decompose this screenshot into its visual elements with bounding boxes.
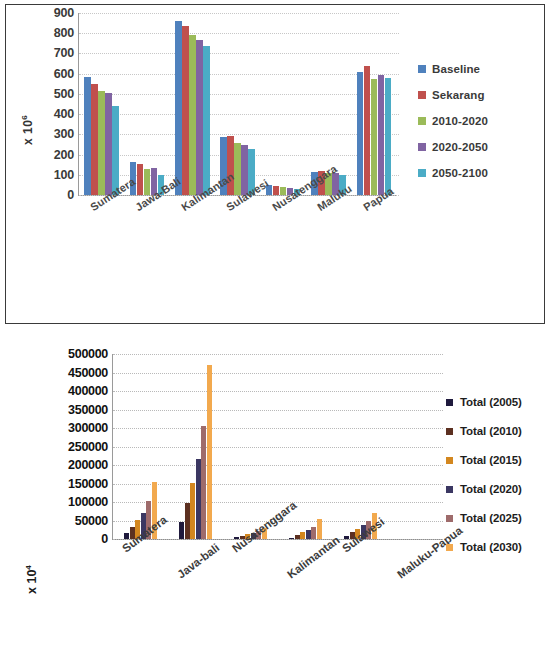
bar-group	[399, 354, 432, 539]
bar[interactable]	[385, 78, 392, 195]
chart-1-container: x 106 9008007006005004003002001000 Sumat…	[5, 4, 545, 324]
legend-label: 2050-2100	[432, 167, 488, 179]
bar[interactable]	[196, 40, 203, 195]
legend-swatch-icon	[446, 544, 453, 551]
legend-item[interactable]: Baseline	[418, 63, 543, 75]
chart-2-y-axis-label-exponent: 4	[24, 565, 33, 569]
bar[interactable]	[201, 426, 206, 539]
bar[interactable]	[203, 46, 210, 195]
bar-group	[357, 13, 392, 195]
bar[interactable]	[175, 21, 182, 195]
legend-label: Total (2005)	[460, 396, 522, 408]
legend-item[interactable]: 2050-2100	[418, 167, 543, 179]
chart-1-y-axis-ticks: 9008007006005004003002001000	[32, 13, 74, 195]
bar[interactable]	[306, 530, 311, 539]
legend-swatch-icon	[418, 169, 426, 177]
bar[interactable]	[311, 527, 316, 539]
chart-2-y-axis-label: x 104	[24, 565, 39, 594]
bar[interactable]	[357, 72, 364, 195]
bar[interactable]	[182, 26, 189, 195]
y-tick-label: 250000	[68, 440, 108, 453]
bar-group	[220, 13, 255, 195]
bar[interactable]	[300, 532, 305, 539]
bar[interactable]	[189, 35, 196, 195]
legend-label: Baseline	[432, 63, 480, 75]
legend-label: Total (2015)	[460, 454, 522, 466]
chart-2-container: x 104 5000004500004000003500003000002500…	[0, 344, 555, 670]
chart-1-plot-area	[78, 13, 397, 196]
bar[interactable]	[273, 186, 280, 195]
bar[interactable]	[105, 93, 112, 195]
bar[interactable]	[371, 79, 378, 195]
bar[interactable]	[179, 522, 184, 539]
bar-group	[124, 354, 157, 539]
bar-group	[179, 354, 212, 539]
bar[interactable]	[289, 538, 294, 539]
bar[interactable]	[196, 459, 201, 539]
y-tick-label: 100000	[68, 496, 108, 509]
bar-group	[234, 354, 267, 539]
bar[interactable]	[207, 365, 212, 539]
bar[interactable]	[234, 143, 241, 195]
bar-group	[130, 13, 165, 195]
gridline	[113, 539, 443, 540]
bar-group	[266, 13, 301, 195]
bar[interactable]	[112, 106, 119, 195]
legend-swatch-icon	[446, 486, 453, 493]
legend-swatch-icon	[418, 65, 426, 73]
legend-item[interactable]: Total (2020)	[446, 483, 555, 495]
bar-group	[175, 13, 210, 195]
bar-group	[84, 13, 119, 195]
y-tick-label: 300000	[68, 422, 108, 435]
legend-item[interactable]: Total (2025)	[446, 512, 555, 524]
legend-swatch-icon	[446, 457, 453, 464]
chart-1-legend: BaselineSekarang2010-20202020-20502050-2…	[418, 63, 543, 193]
legend-item[interactable]: Sekarang	[418, 89, 543, 101]
bar[interactable]	[98, 91, 105, 195]
bar[interactable]	[317, 519, 322, 539]
bar[interactable]	[227, 136, 234, 195]
legend-label: Total (2010)	[460, 425, 522, 437]
bar-group	[344, 354, 377, 539]
y-tick-label: 100	[54, 169, 74, 182]
legend-item[interactable]: Total (2010)	[446, 425, 555, 437]
y-tick-label: 350000	[68, 403, 108, 416]
y-tick-label: 450000	[68, 366, 108, 379]
y-tick-label: 200000	[68, 459, 108, 472]
legend-item[interactable]: Total (2030)	[446, 541, 555, 553]
y-tick-label: 800	[54, 27, 74, 40]
legend-item[interactable]: Total (2005)	[446, 396, 555, 408]
legend-swatch-icon	[446, 399, 453, 406]
bar[interactable]	[84, 77, 91, 195]
y-tick-label: 500000	[68, 348, 108, 361]
chart-2-x-axis-labels: SumateraJava-baliNusatenggaraKalimantanS…	[112, 541, 442, 651]
y-tick-label: 400000	[68, 385, 108, 398]
x-tick-label: Kalimantan	[285, 534, 342, 581]
bar[interactable]	[295, 535, 300, 539]
y-tick-label: 0	[101, 533, 108, 546]
chart-1-y-axis-label-exponent: 6	[20, 115, 29, 120]
bar[interactable]	[185, 503, 190, 539]
y-tick-label: 400	[54, 108, 74, 121]
legend-item[interactable]: 2010-2020	[418, 115, 543, 127]
bar[interactable]	[190, 483, 195, 539]
bar[interactable]	[378, 75, 385, 195]
y-tick-label: 700	[54, 47, 74, 60]
bar[interactable]	[91, 84, 98, 195]
legend-label: Total (2030)	[460, 541, 522, 553]
chart-2-y-axis-label-base: x 10	[25, 570, 39, 594]
legend-swatch-icon	[418, 143, 426, 151]
legend-swatch-icon	[446, 428, 453, 435]
legend-item[interactable]: 2020-2050	[418, 141, 543, 153]
bar[interactable]	[137, 164, 144, 195]
chart-2-legend: Total (2005)Total (2010)Total (2015)Tota…	[446, 396, 555, 570]
y-tick-label: 150000	[68, 477, 108, 490]
legend-item[interactable]: Total (2015)	[446, 454, 555, 466]
y-tick-label: 0	[67, 189, 74, 202]
legend-label: 2020-2050	[432, 141, 488, 153]
bar[interactable]	[364, 66, 371, 195]
y-tick-label: 200	[54, 148, 74, 161]
legend-swatch-icon	[418, 117, 426, 125]
chart-2-y-axis-ticks: 5000004500004000003500003000002500002000…	[36, 354, 108, 539]
y-tick-label: 600	[54, 67, 74, 80]
